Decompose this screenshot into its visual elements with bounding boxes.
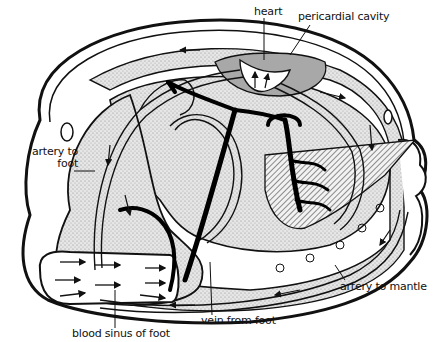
label-blood-sinus-of-foot: blood sinus of foot <box>72 328 170 340</box>
label-heart: heart <box>254 6 282 18</box>
label-pericardial-cavity: pericardial cavity <box>298 11 389 23</box>
blood-sinus <box>40 252 179 304</box>
label-vein-from-foot: vein from foot <box>201 315 276 327</box>
label-artery-to-mantle: artery to mantle <box>340 281 427 293</box>
ostium-left <box>61 123 73 141</box>
clam-circulation-diagram: heart pericardial cavity artery to foot … <box>0 0 438 342</box>
ostium-right <box>384 110 392 124</box>
label-artery-to-foot: artery to foot <box>32 146 78 170</box>
